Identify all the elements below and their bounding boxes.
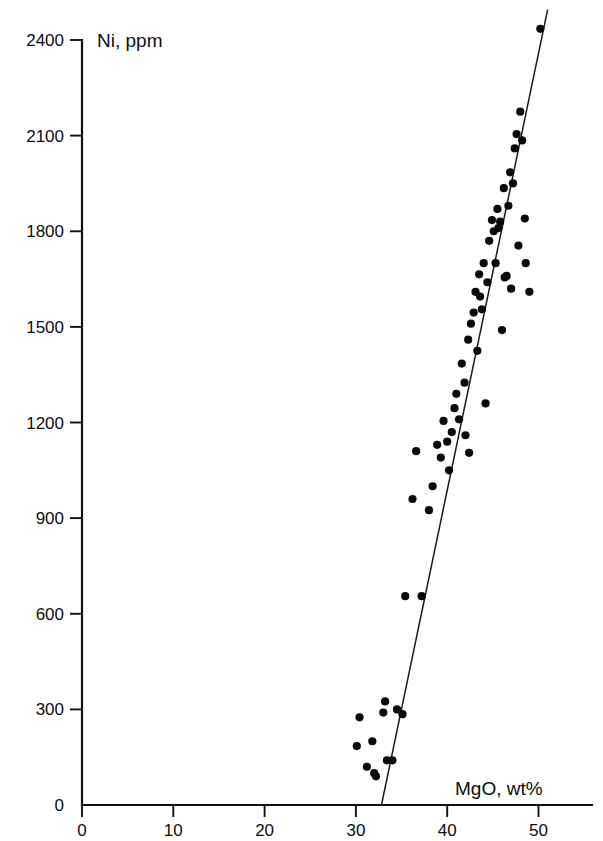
data-point [521, 214, 529, 222]
x-axis-tick-labels: 0 10 20 30 40 50 [77, 821, 548, 840]
x-axis-ticks [82, 805, 539, 817]
data-point [522, 259, 530, 267]
data-point [465, 449, 473, 457]
data-point [504, 202, 512, 210]
x-tick-label-30: 30 [346, 821, 365, 840]
data-point [363, 763, 371, 771]
data-point [450, 404, 458, 412]
data-point [425, 506, 433, 514]
data-point [458, 359, 466, 367]
data-point [418, 592, 426, 600]
data-point [473, 347, 481, 355]
data-point [464, 336, 472, 344]
data-point [488, 216, 496, 224]
data-point [507, 285, 515, 293]
x-tick-label-10: 10 [164, 821, 183, 840]
data-point [445, 466, 453, 474]
data-point [455, 415, 463, 423]
x-tick-label-50: 50 [529, 821, 548, 840]
y-tick-label-0: 0 [55, 796, 64, 815]
y-tick-label-1800: 1800 [26, 222, 64, 241]
data-point [470, 308, 478, 316]
data-point [460, 379, 468, 387]
data-point [478, 305, 486, 313]
y-tick-label-600: 600 [36, 605, 64, 624]
data-point [493, 205, 501, 213]
scatter-plot-svg: 2400 2100 1800 1500 1200 900 600 300 0 0… [0, 0, 603, 841]
data-point [485, 237, 493, 245]
data-point [511, 144, 519, 152]
y-axis-tick-labels: 2400 2100 1800 1500 1200 900 600 300 0 [26, 31, 64, 815]
data-point [381, 697, 389, 705]
data-point [509, 179, 517, 187]
data-point [506, 168, 514, 176]
data-point [498, 326, 506, 334]
x-tick-label-0: 0 [77, 821, 86, 840]
data-point [500, 184, 508, 192]
plot-axes [82, 40, 592, 805]
data-point [491, 259, 499, 267]
data-point [355, 713, 363, 721]
data-point [476, 292, 484, 300]
x-tick-label-40: 40 [438, 821, 457, 840]
data-point [448, 428, 456, 436]
y-tick-label-1500: 1500 [26, 318, 64, 337]
data-point [443, 438, 451, 446]
y-tick-label-1200: 1200 [26, 414, 64, 433]
data-point [514, 241, 522, 249]
data-point [379, 708, 387, 716]
data-point [368, 737, 376, 745]
data-point [483, 278, 491, 286]
data-point [518, 136, 526, 144]
data-point [428, 482, 436, 490]
data-point [496, 218, 504, 226]
data-point [502, 272, 510, 280]
data-point [408, 495, 416, 503]
data-point [452, 390, 460, 398]
x-axis-title: MgO, wt% [455, 778, 543, 799]
data-point [475, 270, 483, 278]
y-tick-label-2100: 2100 [26, 127, 64, 146]
y-tick-label-900: 900 [36, 509, 64, 528]
data-point [372, 772, 380, 780]
y-axis-ticks [70, 40, 82, 709]
data-point [353, 742, 361, 750]
data-point [480, 259, 488, 267]
data-point [536, 25, 544, 33]
scatter-points-layer [353, 25, 545, 781]
data-point [481, 399, 489, 407]
x-tick-label-20: 20 [255, 821, 274, 840]
data-point [433, 441, 441, 449]
data-point [467, 320, 475, 328]
chart-figure: 2400 2100 1800 1500 1200 900 600 300 0 0… [0, 0, 603, 841]
data-point [437, 453, 445, 461]
data-point [512, 130, 520, 138]
y-tick-label-300: 300 [36, 700, 64, 719]
data-point [412, 447, 420, 455]
y-axis-title: Ni, ppm [97, 30, 162, 51]
data-point [388, 756, 396, 764]
data-point [525, 288, 533, 296]
regression-line [381, 10, 547, 805]
data-point [461, 431, 469, 439]
data-point [401, 592, 409, 600]
y-tick-label-2400: 2400 [26, 31, 64, 50]
data-point [516, 108, 524, 116]
data-point [439, 417, 447, 425]
data-point [398, 710, 406, 718]
